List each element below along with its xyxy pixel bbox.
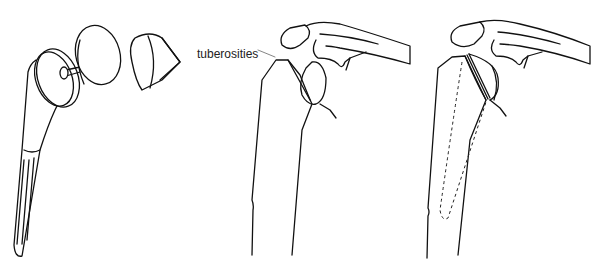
humerus-outline	[252, 60, 312, 255]
shoulder-arthroplasty-figure: tuberosities	[0, 0, 601, 267]
tuberosities-label: tuberosities	[197, 47, 258, 61]
coracoid	[313, 40, 366, 67]
implanted-coracoid	[491, 40, 542, 65]
prosthesis-components-panel	[14, 20, 180, 256]
humeral-head	[301, 62, 326, 105]
shoulder-anatomy-panel	[252, 22, 410, 255]
tuberosities-leader-line	[258, 50, 275, 57]
implanted-clavicle	[480, 20, 590, 64]
implanted-head	[469, 54, 498, 100]
implanted-prosthesis-panel	[427, 20, 590, 258]
implanted-humerus-outline	[427, 56, 486, 258]
implanted-acromion	[451, 22, 484, 47]
prosthesis-cone-insert	[131, 34, 180, 90]
figure-drawing	[0, 0, 601, 267]
acromion	[281, 25, 309, 49]
